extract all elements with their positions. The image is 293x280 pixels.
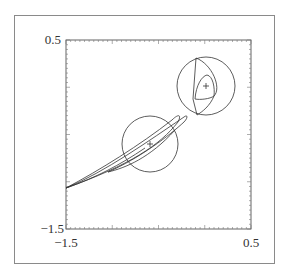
chart-canvas: 0.5 −1.5 −1.5 0.5 <box>0 0 293 280</box>
x-min-label: −1.5 <box>54 235 78 250</box>
inner-teardrop <box>195 75 214 99</box>
y-max-label: 0.5 <box>45 32 61 47</box>
elongated-loop-inner <box>66 116 187 188</box>
center-mark-2 <box>203 83 209 89</box>
lens-chord <box>193 58 197 115</box>
x-max-label: 0.5 <box>243 235 259 250</box>
y-min-label: −1.5 <box>40 221 64 236</box>
